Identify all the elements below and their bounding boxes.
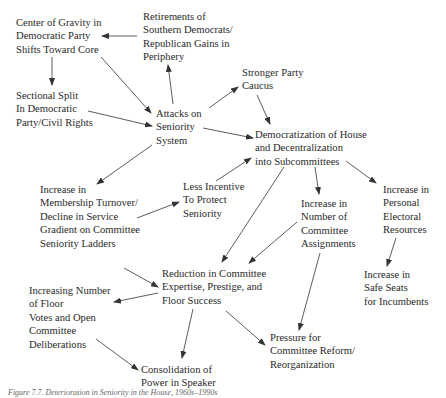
node-membership-turnover: Increase in Membership Turnover/ Decline… (40, 183, 140, 250)
node-pressure-reform: Pressure for Committee Reform/ Reorganiz… (270, 331, 355, 371)
edge-reduction-to-pressure (226, 311, 265, 345)
edge-attacks-to-democratization (203, 128, 253, 138)
node-floor-votes: Increasing Number of Floor Votes and Ope… (29, 284, 110, 351)
node-safe-seats: Increase in Safe Seats for Incumbents (364, 268, 428, 308)
edge-attacks-to-caucus (209, 87, 238, 108)
edge-reduction-to-consolidation (182, 309, 193, 358)
node-reduction: Reduction in Committee Expertise, Presti… (162, 267, 266, 307)
node-stronger-party-caucus: Stronger Party Caucus (242, 66, 304, 93)
node-attacks-on-seniority: Attacks on Seniority System (156, 107, 202, 147)
edge-assignments-to-reduction (249, 222, 297, 263)
node-electoral-resources: Increase in Personal Electoral Resources (383, 183, 429, 237)
edge-center-to-attacks (101, 57, 151, 113)
edge-attacks-to-retirements (168, 65, 173, 104)
edge-assignments-to-pressure (299, 253, 320, 330)
node-committee-assignments: Increase in Number of Committee Assignme… (301, 197, 356, 251)
node-retirements: Retirements of Southern Democrats/ Repub… (143, 10, 233, 64)
edge-less-incentive-to-democratization (216, 158, 251, 181)
figure-caption: Figure 7.7. Deterioration in Seniority i… (8, 388, 217, 397)
edge-electoral-to-safe-seats (387, 238, 396, 266)
node-less-incentive: Less Incentive To Protect Seniority (183, 180, 244, 220)
node-consolidation: Consolidation of Power in Speaker (141, 363, 216, 390)
edge-sectional-to-attacks (88, 111, 152, 126)
edge-reduction-to-floor-votes (114, 293, 158, 302)
node-sectional-split: Sectional Split In Democratic Party/Civi… (16, 89, 93, 129)
node-center-of-gravity: Center of Gravity in Democratic Party Sh… (16, 16, 102, 56)
node-democratization: Democratization of House and Decentraliz… (255, 128, 367, 168)
edge-caucus-to-democratization (257, 95, 270, 124)
edge-attacks-to-membership (97, 145, 152, 184)
edge-membership-to-reduction (124, 268, 158, 287)
edge-membership-to-less-incentive (137, 202, 179, 218)
edge-democratization-to-assignments (315, 167, 319, 194)
